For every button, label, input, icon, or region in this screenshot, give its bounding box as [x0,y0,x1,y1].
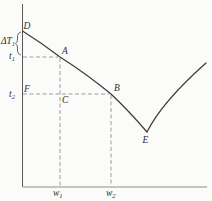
label-t1: t1 [9,51,15,62]
label-point-F: F [23,84,30,94]
phase-diagram-figure: D A B C E F ΔT1 t1 t2 w1 w2 [0,0,212,201]
label-point-D: D [23,21,31,31]
label-t2: t2 [9,89,16,100]
label-point-C: C [62,95,69,105]
label-w1: w1 [53,188,63,199]
delta-t1-brace [16,32,22,55]
phase-diagram-svg: D A B C E F ΔT1 t1 t2 w1 w2 [0,0,212,201]
label-point-B: B [114,83,120,93]
label-point-E: E [142,135,149,145]
label-point-A: A [61,46,68,56]
freezing-point-curve [23,31,207,132]
label-delta-t1: ΔT1 [0,36,15,47]
label-w2: w2 [106,188,116,199]
